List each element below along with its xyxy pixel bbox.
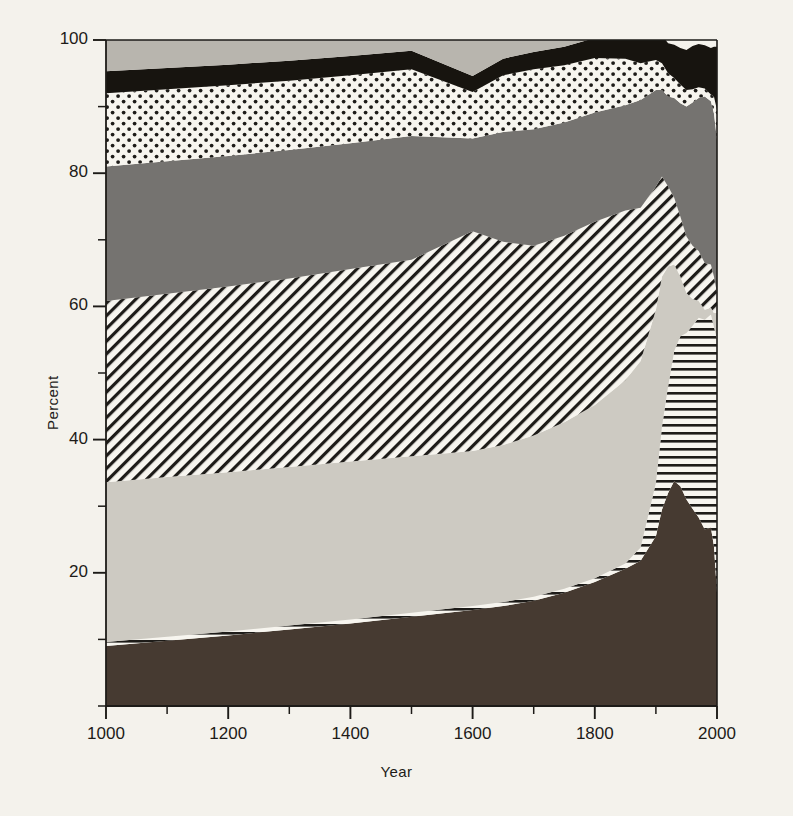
x-axis-label: Year	[0, 763, 793, 780]
y-tick-label: 40	[20, 429, 88, 449]
stacked-area-plot	[0, 0, 793, 816]
x-tick-label: 1600	[433, 724, 513, 744]
chart-figure: 20406080100 100012001400160018002000 Per…	[0, 0, 793, 816]
y-tick-label: 60	[20, 295, 88, 315]
y-axis-label: Percent	[44, 376, 61, 431]
y-tick-label: 100	[20, 29, 88, 49]
y-tick-label: 20	[20, 562, 88, 582]
area-bands	[106, 33, 717, 706]
x-tick-label: 2000	[677, 724, 757, 744]
x-tick-label: 1200	[188, 724, 268, 744]
x-tick-label: 1800	[555, 724, 635, 744]
x-tick-label: 1400	[310, 724, 390, 744]
y-tick-label: 80	[20, 162, 88, 182]
x-tick-label: 1000	[66, 724, 146, 744]
